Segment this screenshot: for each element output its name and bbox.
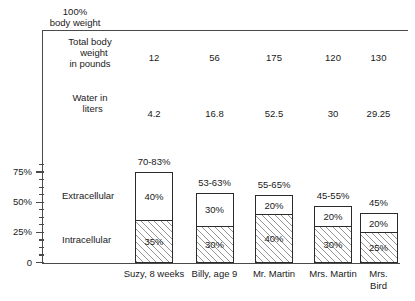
bar-segment-label: 30%: [315, 239, 351, 250]
y-tick: [36, 202, 44, 203]
bar-column: 45-55%20%30%: [314, 190, 352, 263]
category-label: Billy, age 9: [192, 268, 238, 280]
bar-segment-label: 25%: [361, 242, 397, 253]
y-tick-minor: [39, 254, 44, 255]
y-tick-label: 75%: [0, 166, 32, 177]
data-cell: 16.8: [205, 108, 224, 119]
category-label: Mrs. Bird: [360, 268, 397, 292]
y-tick: [36, 232, 44, 233]
bar-segment-label: 20%: [256, 200, 292, 211]
bar-segment-label: 35%: [136, 236, 172, 247]
y-tick: [36, 171, 44, 172]
bar-segment-extracellular: 20%: [314, 206, 352, 228]
bar-segment-intracellular: 35%: [135, 220, 173, 262]
y-tick-label: 25%: [0, 226, 32, 237]
bar-segment-label: 20%: [315, 211, 351, 222]
y-tick-minor: [39, 239, 44, 240]
bar-segment-intracellular: 25%: [360, 232, 398, 262]
bar-total-label: 45-55%: [314, 190, 352, 201]
data-cell: 52.5: [265, 108, 284, 119]
top-caption: 100% body weight: [50, 6, 101, 28]
y-tick-minor: [39, 179, 44, 180]
category-label: Mrs. Martin: [309, 268, 357, 280]
y-tick-minor: [39, 217, 44, 218]
bar-segment-intracellular: 30%: [196, 226, 234, 262]
bar-column: 70-83%40%35%: [135, 156, 173, 263]
data-cell: 56: [209, 52, 220, 63]
category-label: Suzy, 8 weeks: [124, 268, 185, 280]
y-tick-minor: [39, 209, 44, 210]
bar-column: 53-63%30%30%: [196, 177, 234, 263]
frame-left-line: [42, 30, 43, 263]
y-tick-minor: [39, 194, 44, 195]
bar-column: 55-65%20%40%: [255, 179, 293, 263]
bar-total-label: 70-83%: [135, 156, 173, 167]
bar-total-label: 45%: [360, 197, 398, 208]
bar-total-label: 55-65%: [255, 179, 293, 190]
data-cell: 175: [266, 52, 282, 63]
category-label: Mr. Martin: [253, 268, 295, 280]
bar-segment-label: 40%: [136, 191, 172, 202]
bar-segment-label: 20%: [361, 218, 397, 229]
bar-segment-label: 30%: [197, 204, 233, 215]
bar-segment-label: 30%: [197, 239, 233, 250]
frame-top-line: [42, 30, 408, 31]
data-cell: 30: [328, 108, 339, 119]
data-cell: 120: [325, 52, 341, 63]
y-tick-minor: [39, 224, 44, 225]
row-label-water-in-liters: Water in liters: [50, 92, 130, 114]
y-tick: [36, 262, 44, 263]
y-tick-minor: [39, 247, 44, 248]
bar-segment-extracellular: 40%: [135, 172, 173, 222]
y-tick-label: 50%: [0, 196, 32, 207]
bar-segment-extracellular: 20%: [255, 195, 293, 216]
data-cell: 29.25: [367, 108, 391, 119]
body-water-chart: 100% body weight Total body weight in po…: [0, 0, 415, 301]
data-cell: 4.2: [147, 108, 160, 119]
bar-column: 45%20%25%: [360, 197, 398, 263]
x-axis-line: [42, 263, 400, 264]
legend-intracellular: Intracellular: [62, 234, 111, 245]
bar-segment-extracellular: 20%: [360, 213, 398, 234]
legend-extracellular: Extracellular: [62, 190, 114, 201]
y-tick-minor: [39, 164, 44, 165]
bar-segment-intracellular: 40%: [255, 214, 293, 262]
data-cell: 130: [371, 52, 387, 63]
bar-segment-label: 40%: [256, 233, 292, 244]
bar-total-label: 53-63%: [196, 177, 234, 188]
row-label-total-body-weight: Total body weight in pounds: [50, 36, 130, 70]
y-tick-label: 0: [0, 257, 32, 268]
y-tick-minor: [39, 187, 44, 188]
data-cell: 12: [149, 52, 160, 63]
bar-segment-intracellular: 30%: [314, 226, 352, 262]
bar-segment-extracellular: 30%: [196, 193, 234, 228]
